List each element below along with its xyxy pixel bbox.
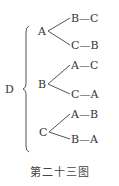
branch-line-c <box>49 114 70 139</box>
leaf-c-1: A—B <box>71 109 98 120</box>
node-c: C <box>39 127 47 138</box>
brace <box>23 26 29 152</box>
branch-line-b <box>48 65 70 94</box>
leaf-c-2: B—A <box>71 134 98 145</box>
leaf-a-2: C—B <box>71 40 99 51</box>
node-b: B <box>38 79 46 90</box>
node-a: A <box>38 26 46 37</box>
figure-caption: 第二十三图 <box>0 163 119 179</box>
leaf-b-2: C—A <box>71 89 98 100</box>
leaf-b-1: A—C <box>71 60 98 71</box>
leaf-a-1: B—C <box>71 13 99 24</box>
branch-line-a <box>48 18 70 45</box>
root-node: D <box>5 84 14 95</box>
tree-lines <box>0 0 119 186</box>
